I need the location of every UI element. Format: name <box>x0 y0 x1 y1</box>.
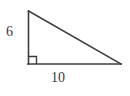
right-triangle-svg <box>0 0 130 96</box>
vertical-leg-label: 6 <box>6 25 13 39</box>
right-angle-marker-icon <box>29 57 37 65</box>
horizontal-leg-label: 10 <box>51 71 65 85</box>
geometry-figure: 6 10 <box>0 0 130 96</box>
hypotenuse-line <box>29 11 122 64</box>
